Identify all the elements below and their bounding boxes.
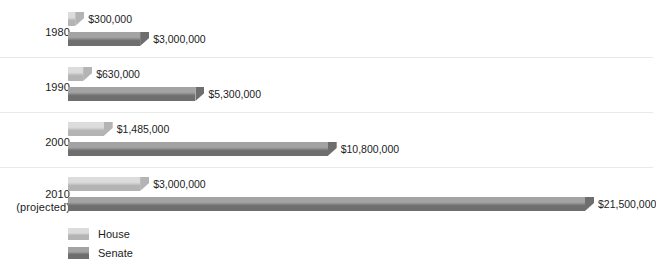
bar-face — [68, 122, 104, 136]
value-label-senate-3: $21,500,000 — [598, 198, 656, 210]
bar-house-2 — [68, 122, 104, 136]
year-axis-label-2: 2000 — [0, 136, 70, 149]
value-label-senate-0: $3,000,000 — [153, 33, 206, 45]
bar-house-0 — [68, 12, 75, 26]
value-label-senate-2: $10,800,000 — [341, 143, 399, 155]
bar-face — [68, 87, 195, 101]
bar-end-cap — [83, 67, 92, 81]
year-axis-label-1: 1990 — [0, 81, 70, 94]
bar-end-cap — [140, 32, 149, 46]
bar-end-cap — [140, 177, 149, 191]
legend-swatch-house — [68, 228, 89, 240]
bar-end-cap — [585, 197, 594, 211]
bar-house-3 — [68, 177, 140, 191]
year-label-line1: 1980 — [0, 26, 70, 39]
value-label-house-1: $630,000 — [96, 68, 140, 80]
year-axis-label-3: 2010(projected) — [0, 188, 70, 214]
value-label-house-2: $1,485,000 — [117, 123, 170, 135]
bar-senate-1 — [68, 87, 195, 101]
value-label-house-3: $3,000,000 — [153, 178, 206, 190]
bar-end-cap — [104, 122, 113, 136]
bar-face — [68, 32, 140, 46]
group-separator — [0, 112, 653, 113]
bar-end-cap — [195, 87, 204, 101]
bar-senate-2 — [68, 142, 328, 156]
group-separator — [0, 167, 653, 168]
bar-senate-0 — [68, 32, 140, 46]
bar-senate-3 — [68, 197, 585, 211]
bar-end-cap — [75, 12, 84, 26]
year-label-line1: 2010 — [0, 188, 70, 201]
bar-face — [68, 142, 328, 156]
year-label-line2: (projected) — [0, 201, 70, 214]
bar-house-1 — [68, 67, 83, 81]
year-axis-label-0: 1980 — [0, 26, 70, 39]
bar-end-cap — [328, 142, 337, 156]
year-label-line1: 2000 — [0, 136, 70, 149]
legend-label-senate: Senate — [98, 247, 133, 260]
bar-face — [68, 177, 140, 191]
year-label-line1: 1990 — [0, 81, 70, 94]
value-label-house-0: $300,000 — [88, 13, 132, 25]
bar-face — [68, 12, 75, 26]
value-label-senate-1: $5,300,000 — [208, 88, 261, 100]
legend-swatch-senate — [68, 247, 89, 259]
bar-face — [68, 197, 585, 211]
legend-label-house: House — [98, 228, 130, 241]
group-separator — [0, 57, 653, 58]
bar-face — [68, 67, 83, 81]
